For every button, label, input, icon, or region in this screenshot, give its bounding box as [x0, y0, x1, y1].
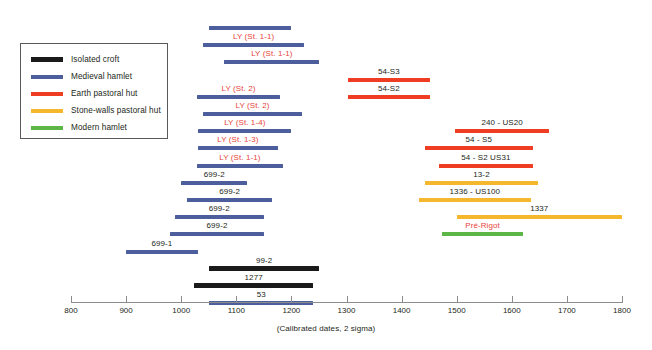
- axis-tick-label: 900: [119, 306, 132, 316]
- axis-tick: [402, 296, 403, 303]
- date-range-bar[interactable]: [126, 250, 198, 254]
- axis-title: (Calibrated dates, 2 sigma): [0, 324, 652, 333]
- legend-item-label: Stone-walls pastoral hut: [71, 106, 161, 115]
- x-axis: 8009001000110012001300140015001600170018…: [0, 296, 652, 350]
- date-range-label: 699-2: [207, 221, 228, 231]
- legend-item[interactable]: Medieval hamlet: [21, 68, 167, 85]
- axis-tick-label: 1800: [613, 306, 631, 316]
- axis-tick-label: 1000: [172, 306, 190, 316]
- date-range-label: LY (St. 2): [221, 84, 255, 94]
- axis-tick: [236, 296, 237, 303]
- axis-tick: [457, 296, 458, 303]
- date-range-label: 13-2: [473, 170, 489, 180]
- legend-item[interactable]: Isolated croft: [21, 51, 167, 68]
- axis-tick: [347, 296, 348, 303]
- date-range-label: Pré-Rigot: [465, 221, 500, 231]
- axis-tick: [71, 296, 72, 303]
- legend-item-label: Modern hamlet: [71, 123, 127, 132]
- legend-item[interactable]: Stone-walls pastoral hut: [21, 102, 167, 119]
- date-range-label: 99-2: [256, 256, 272, 266]
- legend-item-label: Isolated croft: [71, 55, 119, 64]
- axis-tick: [126, 296, 127, 303]
- date-range-label: LY (St. 1-4): [224, 118, 265, 128]
- date-range-label: 240 - US20: [481, 118, 522, 128]
- date-range-label: 699-1: [151, 239, 172, 249]
- legend-swatch-icon: [31, 92, 63, 96]
- axis-tick-label: 1300: [338, 306, 356, 316]
- axis-tick-label: 1400: [393, 306, 411, 316]
- date-range-label: LY (St. 1-1): [219, 153, 260, 163]
- axis-tick-label: 1500: [448, 306, 466, 316]
- date-range-label: 54 - S2 US31: [461, 153, 510, 163]
- radiocarbon-date-range-chart: LY (St. 1-1)LY (St. 1-1)54-S3LY (St. 2)5…: [0, 0, 652, 350]
- axis-tick-label: 1100: [228, 306, 245, 316]
- axis-tick-label: 1600: [503, 306, 521, 316]
- date-range-label: 54-S2: [378, 84, 400, 94]
- date-range-label: LY (St. 1-1): [233, 32, 274, 42]
- date-range-bar[interactable]: [224, 60, 319, 64]
- date-range-label: LY (St. 2): [236, 101, 270, 111]
- date-range-label: 699-2: [209, 204, 230, 214]
- axis-tick-label: 1700: [558, 306, 576, 316]
- legend-swatch-icon: [31, 126, 63, 130]
- legend-swatch-icon: [31, 75, 63, 79]
- axis-tick-label: 800: [64, 306, 77, 316]
- date-range-row: 699-1: [126, 234, 198, 254]
- legend-swatch-icon: [31, 109, 63, 113]
- axis-tick: [291, 296, 292, 303]
- date-range-label: 1277: [245, 273, 263, 283]
- date-range-label: 1336 - US100: [450, 187, 501, 197]
- date-range-label: 699-2: [204, 170, 225, 180]
- date-range-row: Pré-Rigot: [442, 216, 522, 236]
- axis-tick: [622, 296, 623, 303]
- date-range-label: 54-S3: [378, 67, 400, 77]
- axis-tick: [181, 296, 182, 303]
- legend-item[interactable]: Earth pastoral hut: [21, 85, 167, 102]
- date-range-row: 54-S2: [348, 79, 431, 99]
- axis-tick: [512, 296, 513, 303]
- date-range-label: LY (St. 1-1): [251, 49, 292, 59]
- axis-tick: [567, 296, 568, 303]
- axis-tick-label: 1200: [282, 306, 300, 316]
- legend-item[interactable]: Modern hamlet: [21, 119, 167, 136]
- date-range-row: LY (St. 1-1): [224, 44, 319, 64]
- date-range-label: 699-2: [219, 187, 240, 197]
- legend-item-label: Earth pastoral hut: [71, 89, 137, 98]
- legend-item-label: Medieval hamlet: [71, 72, 132, 81]
- date-range-label: 1337: [530, 204, 548, 214]
- legend-swatch-icon: [31, 57, 63, 62]
- legend: Isolated croftMedieval hamletEarth pasto…: [20, 43, 168, 139]
- date-range-bar[interactable]: [348, 95, 431, 99]
- date-range-bar[interactable]: [442, 232, 522, 236]
- date-range-label: LY (St. 1-3): [217, 135, 258, 145]
- date-range-label: 54 - S5: [465, 135, 492, 145]
